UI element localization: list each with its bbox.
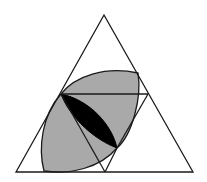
geometry-diagram bbox=[0, 0, 207, 182]
